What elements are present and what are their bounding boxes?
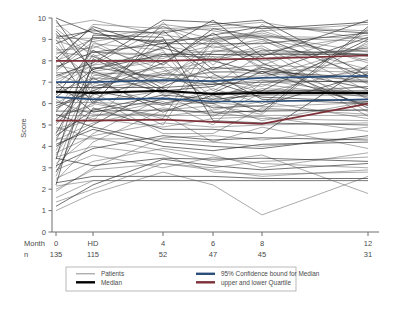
x-tick-label: 12 [364, 239, 372, 248]
chart-legend: PatientsMedian95% Confidence bound for M… [66, 267, 320, 291]
chart-figure: Score 012345678910 Monthn0135HD115452647… [0, 0, 396, 309]
row-label-month: Month [24, 239, 45, 248]
patient-line [56, 159, 368, 206]
x-n-value: 52 [159, 250, 167, 259]
y-tick-label: 0 [42, 228, 46, 237]
x-n-value: 115 [87, 250, 99, 259]
x-axis-table: Monthn0135HD1154526478451231 [24, 239, 372, 259]
x-n-value: 31 [364, 250, 372, 259]
y-tick-label: 7 [42, 78, 46, 87]
patient-line [56, 176, 368, 182]
y-tick-label: 6 [42, 99, 46, 108]
legend-label: Median [101, 279, 122, 286]
patient-line [56, 181, 368, 198]
spaghetti-plot-svg: Score 012345678910 Monthn0135HD115452647… [0, 0, 396, 309]
patient-lines-group [56, 18, 368, 215]
x-n-value: 47 [209, 250, 217, 259]
x-axis [52, 232, 379, 236]
x-tick-label: 4 [161, 239, 165, 248]
y-tick-label: 8 [42, 57, 46, 66]
y-tick-label: 4 [42, 142, 46, 151]
x-tick-label: 8 [260, 239, 264, 248]
x-tick-label: 0 [54, 239, 58, 248]
x-n-value: 135 [50, 250, 63, 259]
y-axis: 012345678910 [38, 14, 52, 237]
x-tick-label: 6 [211, 239, 215, 248]
x-tick-label: HD [88, 239, 99, 248]
patient-line [56, 67, 368, 151]
y-tick-label: 5 [42, 121, 46, 130]
y-tick-label: 3 [42, 164, 46, 173]
legend-label: upper and lower Quartile [221, 279, 291, 287]
legend-label: Patients [101, 270, 124, 277]
row-label-n: n [24, 250, 28, 259]
y-tick-label: 10 [38, 14, 46, 23]
legend-label: 95% Confidence bound for Median [221, 270, 320, 277]
x-n-value: 45 [258, 250, 266, 259]
y-tick-label: 9 [42, 35, 46, 44]
patient-line [56, 27, 368, 121]
y-tick-label: 1 [42, 206, 46, 215]
series-line-q-lower [56, 104, 368, 124]
y-axis-title: Score [19, 118, 28, 138]
y-tick-label: 2 [42, 185, 46, 194]
